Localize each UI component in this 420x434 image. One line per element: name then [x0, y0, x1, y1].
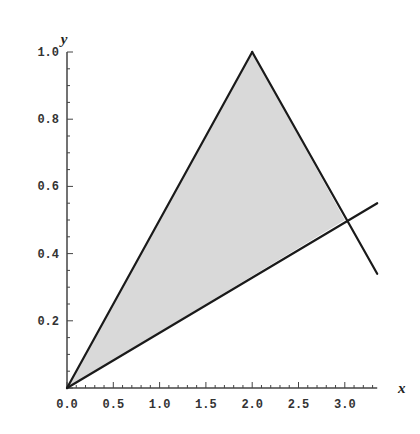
y-axis-label: y	[59, 31, 68, 47]
y-tick-label: 0.2	[37, 315, 59, 329]
x-tick-label: 1.5	[195, 398, 217, 412]
y-tick-label: 0.8	[37, 113, 59, 127]
x-tick-label: 2.0	[241, 398, 263, 412]
y-tick-label: 0.4	[37, 248, 59, 262]
y-tick-label: 0.6	[37, 180, 59, 194]
x-axis-label: x	[397, 380, 406, 396]
x-tick-label: 2.5	[288, 398, 310, 412]
x-tick-label: 3.0	[334, 398, 356, 412]
x-tick-label: 0.5	[102, 398, 124, 412]
shaded-region	[67, 52, 345, 388]
chart: 0.00.51.01.52.02.53.00.20.40.60.81.0xy	[0, 0, 420, 434]
shaded-triangle	[67, 52, 345, 388]
y-tick-label: 1.0	[37, 46, 59, 60]
x-tick-label: 1.0	[149, 398, 171, 412]
x-tick-label: 0.0	[56, 398, 78, 412]
